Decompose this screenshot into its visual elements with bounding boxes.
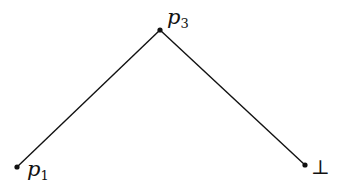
label-p3: p3 <box>167 5 189 31</box>
node-bottom <box>302 162 307 167</box>
node-p1 <box>14 164 19 169</box>
label-p1: p1 <box>27 157 49 183</box>
node-p3 <box>157 27 162 32</box>
edge-p1-p3 <box>17 30 160 167</box>
label-bottom: ⊥ <box>311 155 330 179</box>
edge-p3-bottom <box>160 30 305 165</box>
diagram-canvas: p1 p3 ⊥ <box>0 0 350 186</box>
